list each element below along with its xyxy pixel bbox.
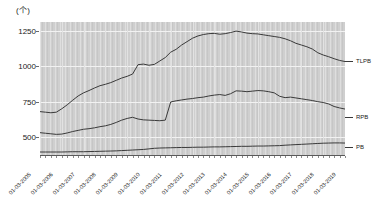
x-axis-tick-mark bbox=[318, 156, 319, 158]
x-axis-tick-mark bbox=[242, 156, 243, 158]
x-axis-tick-mark bbox=[95, 156, 96, 158]
y-axis-tick-mark bbox=[36, 102, 39, 103]
x-axis-tick-label: 01-03-2011 bbox=[138, 172, 162, 196]
x-axis-tick-mark bbox=[182, 156, 183, 158]
x-axis-tick-mark bbox=[154, 156, 155, 158]
legend-line-rpb bbox=[345, 117, 353, 118]
y-axis-tick-label: 1000 bbox=[2, 62, 36, 71]
x-axis-tick-mark bbox=[198, 156, 199, 158]
series-line-rpb bbox=[40, 91, 345, 135]
x-axis-tick-mark bbox=[165, 156, 166, 158]
y-axis-tick-label: 750 bbox=[2, 97, 36, 106]
x-axis-tick-mark bbox=[51, 156, 52, 158]
x-axis-tick-mark bbox=[285, 156, 286, 158]
x-axis-tick-mark bbox=[127, 156, 128, 158]
x-axis-tick-mark bbox=[105, 156, 106, 158]
x-axis-tick-mark bbox=[345, 156, 346, 158]
x-axis-tick-label: 01-03-2012 bbox=[160, 171, 184, 195]
x-axis-tick-mark bbox=[301, 156, 302, 158]
x-axis-tick-mark bbox=[307, 156, 308, 158]
x-axis-tick-mark bbox=[274, 156, 275, 158]
y-axis-tick-label: 500 bbox=[2, 133, 36, 142]
x-axis-tick-mark bbox=[334, 156, 335, 158]
series-line-pb bbox=[40, 143, 345, 152]
y-axis-tick-mark bbox=[36, 31, 39, 32]
x-axis-tick-mark bbox=[62, 156, 63, 158]
legend-label-pb: PB bbox=[356, 144, 364, 150]
x-axis-tick-mark bbox=[133, 156, 134, 158]
legend-line-tlpb bbox=[345, 61, 353, 62]
x-axis-tick-mark bbox=[160, 156, 161, 158]
plot-area bbox=[40, 22, 345, 155]
x-axis-tick-mark bbox=[231, 156, 232, 158]
x-axis-tick-mark bbox=[144, 156, 145, 158]
x-axis-tick-mark bbox=[209, 156, 210, 158]
x-axis-tick-mark bbox=[220, 156, 221, 158]
x-axis-tick-label: 01-03-2016 bbox=[247, 171, 271, 195]
legend-label-tlpb: TLPB bbox=[356, 58, 371, 64]
x-axis-tick-mark bbox=[269, 156, 270, 158]
x-axis-tick-label: 01-03-2007 bbox=[51, 171, 75, 195]
x-axis-tick-mark bbox=[203, 156, 204, 158]
x-axis-tick-mark bbox=[340, 156, 341, 158]
x-axis-tick-label: 01-03-2015 bbox=[225, 171, 249, 195]
x-axis-tick-mark bbox=[258, 156, 259, 158]
y-axis-unit-label: (个) bbox=[16, 4, 30, 15]
x-axis-tick-mark bbox=[78, 156, 79, 158]
x-axis-tick-label: 01-03-2008 bbox=[73, 171, 97, 195]
x-axis-tick-mark bbox=[73, 156, 74, 158]
x-axis-tick-mark bbox=[263, 156, 264, 158]
x-axis-tick-mark bbox=[193, 156, 194, 158]
x-axis-tick-mark bbox=[312, 156, 313, 158]
x-axis-tick-mark bbox=[329, 156, 330, 158]
x-axis-tick-mark bbox=[247, 156, 248, 158]
x-axis-tick-mark bbox=[122, 156, 123, 158]
y-axis-tick-mark bbox=[36, 137, 39, 138]
chart-container: (个) 50075010001250 01-03-200501-03-20060… bbox=[0, 0, 381, 209]
legend: TLPBRPBPB bbox=[345, 22, 381, 155]
x-axis-tick-mark bbox=[138, 156, 139, 158]
x-axis-tick-mark bbox=[100, 156, 101, 158]
series-lines bbox=[40, 22, 345, 155]
y-axis: 50075010001250 bbox=[0, 22, 36, 155]
x-axis-tick-label: 01-03-2019 bbox=[312, 171, 336, 195]
x-axis-tick-label: 01-03-2005 bbox=[7, 171, 31, 195]
legend-label-rpb: RPB bbox=[356, 114, 368, 120]
x-axis-tick-label: 01-03-2010 bbox=[116, 171, 140, 195]
x-axis-tick-mark bbox=[225, 156, 226, 158]
x-axis: 01-03-200501-03-200601-03-200701-03-2008… bbox=[40, 155, 345, 209]
x-axis-tick-mark bbox=[171, 156, 172, 158]
x-axis-tick-mark bbox=[280, 156, 281, 158]
x-axis-tick-mark bbox=[296, 156, 297, 158]
x-axis-tick-label: 01-03-2018 bbox=[291, 171, 315, 195]
x-axis-tick-label: 01-03-2013 bbox=[182, 171, 206, 195]
x-axis-tick-mark bbox=[111, 156, 112, 158]
x-axis-tick-label: 01-03-2014 bbox=[204, 171, 228, 195]
x-axis-tick-mark bbox=[67, 156, 68, 158]
y-axis-tick-mark bbox=[36, 66, 39, 67]
series-line-tlpb bbox=[40, 31, 345, 113]
x-axis-tick-mark bbox=[176, 156, 177, 158]
x-axis-tick-mark bbox=[214, 156, 215, 158]
x-axis-tick-mark bbox=[84, 156, 85, 158]
x-axis-tick-label: 01-03-2009 bbox=[95, 171, 119, 195]
x-axis-tick-mark bbox=[291, 156, 292, 158]
x-axis-tick-mark bbox=[323, 156, 324, 158]
x-axis-tick-mark bbox=[40, 156, 41, 158]
legend-line-pb bbox=[345, 147, 353, 148]
y-axis-tick-label: 1250 bbox=[2, 26, 36, 35]
x-axis-tick-mark bbox=[116, 156, 117, 158]
x-axis-tick-mark bbox=[45, 156, 46, 158]
x-axis-tick-mark bbox=[89, 156, 90, 158]
x-axis-tick-mark bbox=[187, 156, 188, 158]
x-axis-tick-label: 01-03-2006 bbox=[29, 171, 53, 195]
x-axis-tick-mark bbox=[252, 156, 253, 158]
x-axis-tick-mark bbox=[149, 156, 150, 158]
x-axis-tick-label: 01-03-2017 bbox=[269, 171, 293, 195]
x-axis-tick-mark bbox=[236, 156, 237, 158]
x-axis-tick-mark bbox=[56, 156, 57, 158]
